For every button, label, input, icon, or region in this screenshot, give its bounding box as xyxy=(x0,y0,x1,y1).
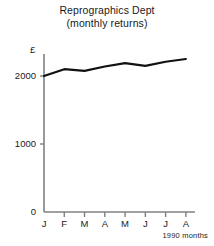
x-tick-label: M xyxy=(118,219,132,229)
y-tick-label-text: 2000 xyxy=(0,71,36,81)
y-tick-label-text: 0 xyxy=(0,207,36,217)
chart-container: Reprographics Dept (monthly returns) £ 0… xyxy=(0,0,214,246)
x-tick-label: A xyxy=(98,219,112,229)
data-series-line xyxy=(44,59,186,76)
x-tick-label: J xyxy=(138,219,152,229)
x-tick-label: M xyxy=(78,219,92,229)
x-axis-note: 1990 months xyxy=(162,231,208,240)
y-tick-label-text: 1000 xyxy=(0,139,36,149)
axis-lines xyxy=(44,54,195,212)
x-tick-label: J xyxy=(37,219,51,229)
x-tick-label: F xyxy=(57,219,71,229)
x-tick-label: A xyxy=(179,219,193,229)
x-tick-label: J xyxy=(159,219,173,229)
